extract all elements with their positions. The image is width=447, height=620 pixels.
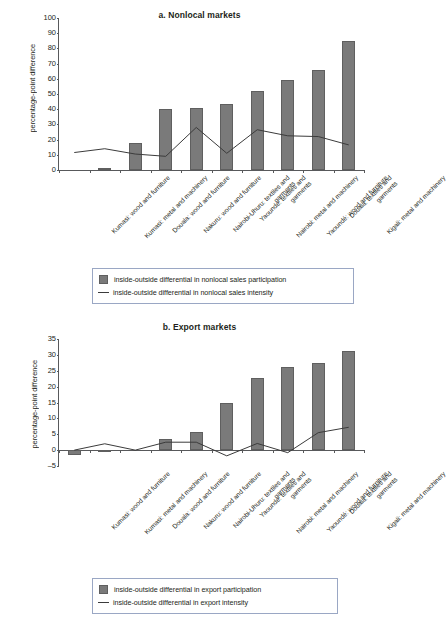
legend-bar-swatch-icon	[99, 585, 108, 594]
legend-row-line: inside-outside differential in nonlocal …	[99, 286, 347, 299]
y-tick-mark	[57, 466, 60, 467]
y-tick-label: 0	[52, 166, 56, 174]
y-tick-label: 35	[48, 335, 56, 343]
y-tick-label: 70	[48, 60, 56, 68]
legend-bar-swatch-icon	[99, 275, 108, 284]
panel-b-legend: inside-outside differential in export pa…	[92, 578, 338, 614]
legend-row-bar: inside-outside differential in export pa…	[99, 583, 331, 596]
y-tick-label: 30	[48, 351, 56, 359]
y-tick-label: 40	[48, 105, 56, 113]
y-tick-label: 50	[48, 90, 56, 98]
panel-nonlocal-markets: a. Nonlocal markets percentage-point dif…	[0, 0, 379, 310]
y-tick-label: 20	[48, 136, 56, 144]
y-tick-label: 10	[48, 151, 56, 159]
y-tick-label: –5	[48, 462, 56, 470]
y-tick-label: 90	[48, 29, 56, 37]
legend-line-label: inside-outside differential in export in…	[113, 598, 248, 607]
legend-row-line: inside-outside differential in export in…	[99, 596, 331, 609]
panel-b-line-series	[59, 339, 364, 466]
panel-a-legend: inside-outside differential in nonlocal …	[92, 268, 354, 304]
line-path	[74, 127, 349, 156]
y-tick-label: 20	[48, 383, 56, 391]
x-axis-label: Kumasi: wood and furniture	[110, 174, 171, 235]
legend-line-label: inside-outside differential in nonlocal …	[113, 288, 273, 297]
panel-a-y-axis-label: percentage-point difference	[28, 44, 37, 132]
y-tick-label: 100	[43, 14, 56, 22]
legend-bar-label: inside-outside differential in export pa…	[114, 585, 261, 594]
panel-a-line-series	[59, 18, 364, 170]
panel-b-x-labels: Kumasi: wood and furnitureKumasi: metal …	[58, 468, 368, 563]
panel-b-plot-area: –505101520253035	[58, 339, 364, 466]
legend-line-swatch-icon	[98, 292, 109, 293]
y-tick-label: 80	[48, 45, 56, 53]
x-axis-label: Kumasi: wood and furniture	[110, 470, 171, 531]
y-tick-label: 60	[48, 75, 56, 83]
panel-a-plot-area: 0102030405060708090100	[58, 18, 364, 170]
legend-bar-label: inside-outside differential in nonlocal …	[114, 275, 286, 284]
y-tick-label: 10	[48, 415, 56, 423]
panel-a-x-labels: Kumasi: wood and furnitureKumasi: metal …	[58, 172, 368, 267]
y-tick-label: 15	[48, 399, 56, 407]
line-path	[74, 427, 349, 456]
panel-b-title: b. Export markets	[10, 322, 389, 332]
y-tick-label: 0	[52, 446, 56, 454]
y-tick-label: 5	[52, 431, 56, 439]
x-tick-mark	[364, 450, 365, 453]
y-tick-label: 30	[48, 121, 56, 129]
legend-line-swatch-icon	[98, 602, 109, 603]
legend-row-bar: inside-outside differential in nonlocal …	[99, 273, 347, 286]
y-tick-label: 25	[48, 367, 56, 375]
panel-b-y-axis-label: percentage-point difference	[30, 360, 39, 448]
